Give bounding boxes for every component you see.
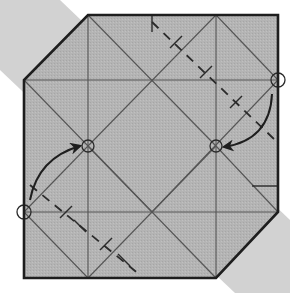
origami-diagram [0,0,290,293]
diagram-canvas [0,0,290,293]
paper-fill [24,15,278,278]
paper-sheet [24,15,278,278]
